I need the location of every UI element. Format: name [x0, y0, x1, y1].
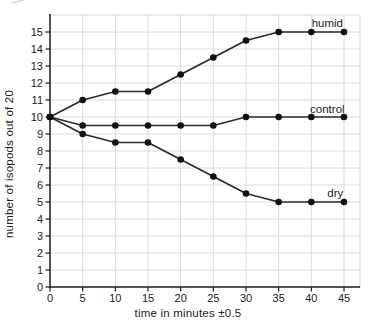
data-point-humid — [112, 88, 119, 95]
data-point-dry — [243, 190, 250, 197]
y-tick-label: 15 — [31, 26, 43, 38]
y-tick-label: 4 — [37, 213, 43, 225]
isopod-line-chart: 0123456789101112131415051015202530354045… — [0, 0, 376, 331]
series-line-control — [50, 117, 344, 126]
data-point-control — [79, 122, 86, 129]
y-tick-label: 12 — [31, 77, 43, 89]
data-point-dry — [210, 173, 217, 180]
data-point-control — [308, 114, 315, 121]
y-tick-label: 9 — [37, 128, 43, 140]
y-tick-label: 0 — [37, 281, 43, 293]
data-point-control — [112, 122, 119, 129]
data-point-dry — [47, 114, 54, 121]
data-point-control — [243, 114, 250, 121]
y-tick-label: 5 — [37, 196, 43, 208]
data-point-humid — [243, 37, 250, 44]
data-point-dry — [341, 199, 348, 206]
x-tick-label: 30 — [240, 292, 252, 304]
x-tick-label: 45 — [338, 292, 350, 304]
data-point-humid — [177, 71, 184, 78]
data-point-humid — [210, 54, 217, 61]
y-tick-label: 6 — [37, 179, 43, 191]
series-label-control: control — [310, 103, 345, 115]
series-line-humid — [50, 32, 344, 117]
series-line-dry — [50, 117, 344, 202]
data-point-dry — [79, 131, 86, 138]
y-tick-label: 14 — [31, 43, 43, 55]
x-tick-label: 5 — [80, 292, 86, 304]
data-point-control — [210, 122, 217, 129]
x-tick-label: 15 — [142, 292, 154, 304]
x-tick-label: 0 — [47, 292, 53, 304]
data-point-control — [275, 114, 282, 121]
x-axis-title: time in minutes ±0.5 — [0, 307, 376, 319]
data-point-dry — [308, 199, 315, 206]
y-tick-label: 1 — [37, 264, 43, 276]
x-tick-label: 40 — [305, 292, 317, 304]
data-point-humid — [341, 29, 348, 36]
data-point-control — [341, 114, 348, 121]
data-point-humid — [79, 97, 86, 104]
x-tick-label: 25 — [207, 292, 219, 304]
y-tick-label: 2 — [37, 247, 43, 259]
data-point-dry — [177, 156, 184, 163]
y-tick-label: 7 — [37, 162, 43, 174]
data-point-dry — [145, 139, 152, 146]
chart-figure: 0123456789101112131415051015202530354045… — [0, 0, 376, 331]
x-tick-label: 35 — [273, 292, 285, 304]
y-tick-label: 11 — [32, 94, 43, 106]
y-tick-label: 3 — [37, 230, 43, 242]
x-tick-label: 20 — [175, 292, 187, 304]
y-tick-label: 8 — [37, 145, 43, 157]
data-point-control — [145, 122, 152, 129]
data-point-dry — [112, 139, 119, 146]
x-tick-label: 10 — [109, 292, 121, 304]
series-label-humid: humid — [312, 17, 343, 29]
data-point-humid — [275, 29, 282, 36]
data-point-humid — [145, 88, 152, 95]
y-tick-label: 10 — [31, 111, 43, 123]
data-point-humid — [308, 29, 315, 36]
y-axis-title: number of isopods out of 20 — [3, 50, 15, 278]
series-label-dry: dry — [327, 187, 343, 199]
data-point-dry — [275, 199, 282, 206]
y-tick-label: 13 — [31, 60, 43, 72]
data-point-control — [177, 122, 184, 129]
